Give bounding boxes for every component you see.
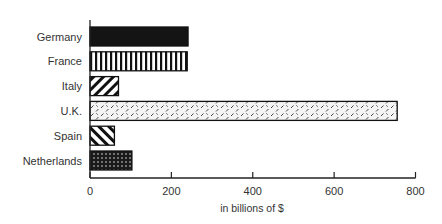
- x-tick-label: 800: [406, 185, 424, 197]
- category-label: Germany: [37, 31, 83, 43]
- bar-spain: [90, 126, 114, 145]
- category-label: Spain: [54, 130, 82, 142]
- x-tick-label: 400: [244, 185, 262, 197]
- x-axis-ticks: 0200400600800: [87, 172, 425, 197]
- category-label: France: [48, 55, 82, 67]
- x-tick-label: 200: [162, 185, 180, 197]
- bar-netherlands: [90, 151, 132, 170]
- category-label: Netherlands: [23, 155, 83, 167]
- bar-france: [90, 52, 187, 71]
- x-tick-label: 0: [87, 185, 93, 197]
- x-tick-label: 600: [325, 185, 343, 197]
- bar-chart: GermanyFranceItalyU.K.SpainNetherlands 0…: [0, 0, 442, 224]
- x-axis-title: in billions of $: [220, 202, 284, 214]
- bar-germany: [90, 27, 188, 46]
- category-label: U.K.: [61, 105, 82, 117]
- bar-italy: [90, 77, 118, 96]
- bars-group: [90, 27, 397, 170]
- category-labels: GermanyFranceItalyU.K.SpainNetherlands: [23, 31, 83, 167]
- category-label: Italy: [62, 80, 83, 92]
- bar-uk: [90, 101, 397, 120]
